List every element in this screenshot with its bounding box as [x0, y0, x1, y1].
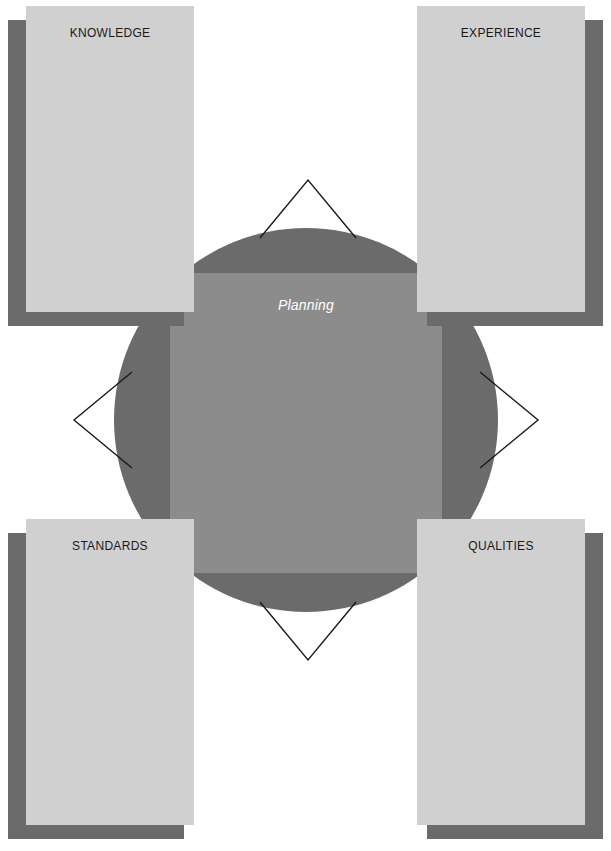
card-qualities[interactable]: QUALITIES — [417, 519, 603, 839]
card-experience-title: EXPERIENCE — [417, 26, 585, 40]
center-square-shape: Planning — [170, 273, 442, 573]
card-knowledge-face[interactable]: KNOWLEDGE — [26, 6, 194, 312]
card-knowledge-title: KNOWLEDGE — [26, 26, 194, 40]
card-qualities-title: QUALITIES — [417, 539, 585, 553]
diagram-canvas: Planning KNOWLEDGE EXPERIENCE STANDARDS … — [0, 0, 611, 851]
card-qualities-face[interactable]: QUALITIES — [417, 519, 585, 825]
card-experience[interactable]: EXPERIENCE — [417, 6, 603, 326]
center-label: Planning — [170, 297, 442, 313]
card-experience-face[interactable]: EXPERIENCE — [417, 6, 585, 312]
card-standards-face[interactable]: STANDARDS — [26, 519, 194, 825]
card-standards[interactable]: STANDARDS — [8, 519, 194, 839]
card-knowledge[interactable]: KNOWLEDGE — [8, 6, 194, 326]
card-standards-title: STANDARDS — [26, 539, 194, 553]
